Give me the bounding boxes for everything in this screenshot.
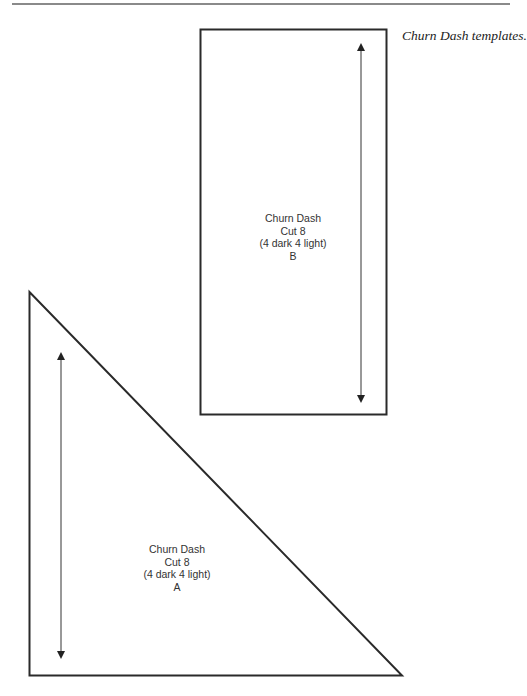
template-a-colors: (4 dark 4 light)	[107, 568, 247, 581]
template-a-cut: Cut 8	[107, 556, 247, 569]
template-b-label: Churn Dash Cut 8 (4 dark 4 light) B	[223, 212, 363, 262]
template-b-colors: (4 dark 4 light)	[223, 237, 363, 250]
template-b-id: B	[223, 250, 363, 263]
template-b-name: Churn Dash	[223, 212, 363, 225]
template-a-outline	[30, 292, 403, 676]
template-b-cut: Cut 8	[223, 225, 363, 238]
template-a-name: Churn Dash	[107, 543, 247, 556]
template-a-label: Churn Dash Cut 8 (4 dark 4 light) A	[107, 543, 247, 593]
template-a	[30, 292, 403, 676]
template-a-id: A	[107, 581, 247, 594]
